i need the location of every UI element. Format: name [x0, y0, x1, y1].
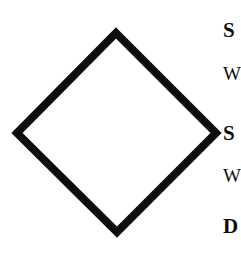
page-canvas: S W S W D [0, 0, 241, 255]
cropped-text-column: S W S W D [222, 0, 241, 255]
figure-area [0, 0, 222, 255]
text-line-5: D [223, 215, 238, 237]
text-line-3: S [223, 122, 235, 144]
text-line-2: W [223, 64, 241, 84]
diamond-icon [0, 0, 222, 255]
text-line-4: W [223, 166, 241, 186]
text-line-1: S [223, 19, 235, 41]
